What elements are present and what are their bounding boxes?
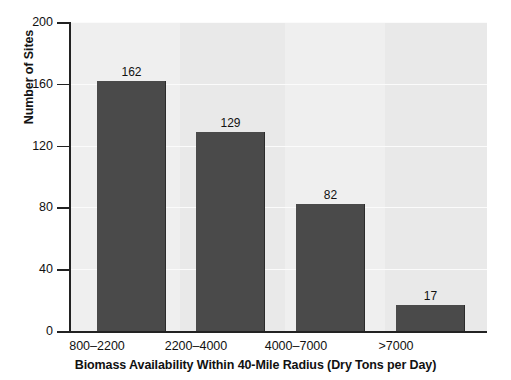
- y-tick-80: [57, 207, 70, 209]
- bar-value-label-2200-4000: 129: [201, 116, 261, 130]
- y-tick-200: [57, 22, 70, 24]
- bar-value-label-800-2200: 162: [102, 65, 162, 79]
- bar-4000-7000: [296, 204, 365, 331]
- background-band-4: [385, 22, 487, 331]
- x-tick-label-800-2200: 800–2200: [62, 339, 132, 353]
- y-tick-label-40: 40: [0, 262, 53, 276]
- y-tick-label-80: 80: [0, 200, 53, 214]
- x-axis-line: [57, 331, 487, 333]
- y-tick-label-120: 120: [0, 139, 53, 153]
- y-tick-label-160: 160: [0, 77, 53, 91]
- x-tick-label-2200-4000: 2200–4000: [161, 339, 231, 353]
- x-tick-label-4000-7000: 4000–7000: [261, 339, 331, 353]
- y-tick-120: [57, 146, 70, 148]
- bar-gt-7000: [396, 305, 465, 331]
- x-tick-label-gt-7000: >7000: [361, 339, 431, 353]
- y-tick-label-200: 200: [0, 15, 53, 29]
- y-axis-line: [69, 22, 71, 332]
- y-tick-0: [57, 331, 70, 333]
- bar-value-label-gt-7000: 17: [401, 289, 461, 303]
- y-tick-label-0: 0: [0, 324, 53, 338]
- bar-value-label-4000-7000: 82: [301, 188, 361, 202]
- y-tick-40: [57, 269, 70, 271]
- x-axis-title: Biomass Availability Within 40-Mile Radi…: [0, 358, 511, 372]
- bar-2200-4000: [196, 132, 265, 331]
- y-tick-160: [57, 84, 70, 86]
- bar-800-2200: [97, 81, 166, 331]
- gridline-200: [70, 22, 487, 23]
- bar-chart: Number of Sites 0 40 80 120 160 200 162 …: [0, 0, 511, 380]
